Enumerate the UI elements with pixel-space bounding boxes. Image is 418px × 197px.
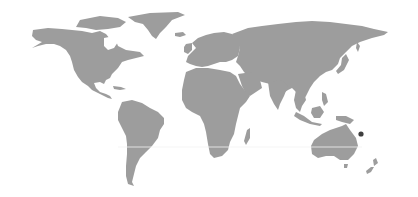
landmass-british-isles — [184, 43, 192, 54]
landmass-southeast-asia — [294, 90, 306, 112]
landmass-new-zealand — [366, 158, 378, 174]
landmass-tasmania — [344, 164, 348, 168]
landmass-india — [268, 80, 288, 110]
landmass-borneo — [311, 106, 324, 118]
landmass-new-guinea — [336, 116, 354, 124]
landmass-caribbean — [113, 86, 126, 90]
landmass-north-america — [32, 28, 144, 99]
landmass-africa — [182, 68, 250, 158]
landmass-south-america — [118, 100, 164, 186]
landmass-europe — [186, 32, 240, 67]
landmass-philippines — [322, 92, 328, 106]
landmass-arctic-islands — [76, 16, 126, 30]
landmass-madagascar — [244, 128, 250, 145]
world-map — [0, 0, 418, 197]
location-marker[interactable] — [358, 131, 363, 136]
world-map-svg — [0, 0, 418, 197]
landmass-australia — [311, 124, 358, 160]
landmass-iceland — [175, 32, 186, 37]
